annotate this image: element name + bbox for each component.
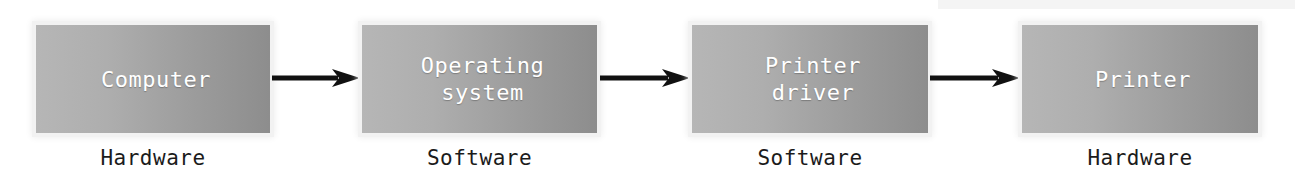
arrow-driver-to-printer	[930, 69, 1020, 87]
diagram-node-printer-label: Printer	[1089, 66, 1191, 93]
diagram-node-computer-label: Computer	[95, 66, 211, 93]
diagram-node-computer[interactable]: Computer	[36, 25, 270, 133]
diagram-caption-printer-driver: Software	[692, 146, 928, 170]
diagram-node-operating-system-label: Operating system	[415, 52, 545, 106]
diagram-node-printer-driver-label: Printer driver	[759, 52, 861, 106]
printing-flow-diagram: Computer Hardware Operating system Softw…	[0, 0, 1295, 194]
arrow-os-to-driver	[600, 69, 690, 87]
scan-artifact-band	[938, 0, 1295, 9]
arrow-computer-to-os	[272, 69, 360, 87]
diagram-node-printer-driver[interactable]: Printer driver	[692, 25, 928, 133]
diagram-caption-computer: Hardware	[36, 146, 270, 170]
diagram-node-operating-system[interactable]: Operating system	[362, 25, 597, 133]
diagram-node-printer[interactable]: Printer	[1022, 25, 1258, 133]
diagram-caption-operating-system: Software	[362, 146, 597, 170]
diagram-caption-printer: Hardware	[1022, 146, 1258, 170]
